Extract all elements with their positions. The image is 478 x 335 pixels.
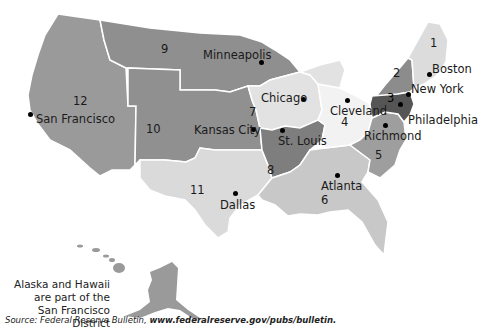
city-label-richmond: Richmond <box>364 131 422 143</box>
note-line-2: are part of the <box>0 291 110 304</box>
source-url[interactable]: www.federalreserve.gov/pubs/bulletin. <box>149 315 336 325</box>
note-line-1: Alaska and Hawaii <box>0 278 110 291</box>
city-label-new-york: New York <box>411 84 464 96</box>
district-number-4: 4 <box>341 117 348 129</box>
city-label-minneapolis: Minneapolis <box>203 50 272 62</box>
city-label-san-francisco: San Francisco <box>36 114 115 126</box>
district-number-9: 9 <box>161 44 168 56</box>
city-label-philadelphia: Philadelphia <box>408 115 478 127</box>
hawaii-region <box>77 245 125 274</box>
city-label-st-louis: St. Louis <box>278 136 327 148</box>
district-1-region <box>408 22 448 88</box>
city-label-atlanta: Atlanta <box>321 181 362 193</box>
source-prefix: Source: Federal Reserve Bulletin, <box>5 315 149 325</box>
city-dot-st-louis <box>280 128 285 133</box>
district-number-12: 12 <box>73 96 88 108</box>
district-number-7: 7 <box>249 107 256 119</box>
district-number-11: 11 <box>190 185 205 197</box>
city-label-kansas-city: Kansas City <box>194 125 261 137</box>
district-number-10: 10 <box>146 124 161 136</box>
city-label-cleveland: Cleveland <box>330 106 387 118</box>
district-number-8: 8 <box>267 165 274 177</box>
city-dot-atlanta <box>335 173 340 178</box>
district-number-2: 2 <box>393 68 400 80</box>
district-number-6: 6 <box>321 195 328 207</box>
district-number-5: 5 <box>375 150 382 162</box>
source-citation: Source: Federal Reserve Bulletin, www.fe… <box>5 315 336 325</box>
city-dot-dallas <box>233 191 238 196</box>
district-number-3: 3 <box>387 93 394 105</box>
district-number-1: 1 <box>430 38 437 50</box>
city-label-chicago: Chicago <box>261 93 307 105</box>
city-dot-san-francisco <box>28 112 33 117</box>
city-label-boston: Boston <box>432 64 472 76</box>
alaska-region <box>125 262 200 320</box>
city-dot-richmond <box>383 123 388 128</box>
city-label-dallas: Dallas <box>220 200 255 212</box>
city-dot-cleveland <box>345 98 350 103</box>
district-11-region <box>140 148 272 238</box>
city-dot-philadelphia <box>398 102 403 107</box>
